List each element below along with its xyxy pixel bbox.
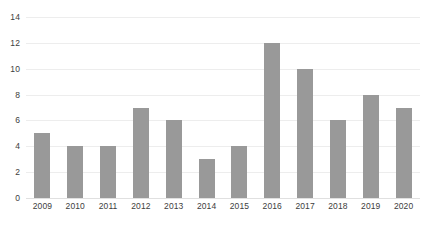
bar-chart: 02468101214 2009201020112012201320142015… — [0, 0, 432, 226]
x-axis-tick-label: 2017 — [288, 202, 322, 211]
y-axis-tick-label: 0 — [0, 194, 20, 203]
x-axis-tick-label: 2012 — [124, 202, 158, 211]
x-axis-tick-label: 2019 — [354, 202, 388, 211]
x-axis-tick-label: 2016 — [255, 202, 289, 211]
bar — [264, 43, 280, 198]
bar — [396, 108, 412, 199]
bar — [363, 95, 379, 198]
plot-area — [26, 17, 420, 198]
bar — [100, 146, 116, 198]
bars-group — [26, 17, 420, 198]
y-axis-tick-label: 14 — [0, 13, 20, 22]
gridline-0 — [26, 198, 420, 199]
bar — [67, 146, 83, 198]
x-axis-tick-label: 2018 — [321, 202, 355, 211]
x-axis-tick-label: 2015 — [222, 202, 256, 211]
y-axis-tick-label: 4 — [0, 142, 20, 151]
bar — [199, 159, 215, 198]
y-axis-tick-label: 2 — [0, 168, 20, 177]
y-axis-tick-label: 10 — [0, 64, 20, 73]
x-axis-tick-label: 2009 — [25, 202, 59, 211]
x-axis-tick-label: 2014 — [190, 202, 224, 211]
bar — [330, 120, 346, 198]
x-axis: 2009201020112012201320142015201620172018… — [26, 200, 420, 220]
bar — [34, 133, 50, 198]
bar — [166, 120, 182, 198]
x-axis-tick-label: 2010 — [58, 202, 92, 211]
x-axis-tick-label: 2011 — [91, 202, 125, 211]
bar — [133, 108, 149, 199]
bar — [231, 146, 247, 198]
x-axis-tick-label: 2013 — [157, 202, 191, 211]
y-axis-tick-label: 6 — [0, 116, 20, 125]
y-axis-tick-label: 8 — [0, 90, 20, 99]
y-axis-tick-label: 12 — [0, 39, 20, 48]
bar — [297, 69, 313, 198]
x-axis-tick-label: 2020 — [387, 202, 421, 211]
